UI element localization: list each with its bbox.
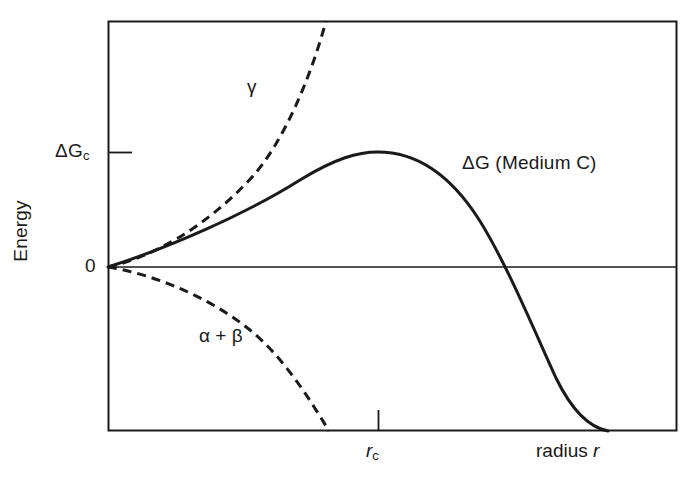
curve-delta-g xyxy=(108,152,608,431)
x-axis-label-variable: r xyxy=(593,440,599,461)
x-axis-label: radius r xyxy=(536,440,599,462)
curve-alpha-beta xyxy=(108,267,329,431)
free-energy-vs-radius-chart: Energy ΔGc 0 rc radius r γ α + β ΔG (Med… xyxy=(0,0,699,486)
x-tick-label-r-c: rc xyxy=(366,440,379,463)
y-axis-label: Energy xyxy=(10,196,32,266)
chart-svg xyxy=(0,0,699,486)
y-tick-label-delta-g-c: ΔGc xyxy=(55,140,89,163)
y-tick-label-delta-g-c-subscript: c xyxy=(83,148,90,163)
plot-frame xyxy=(109,22,677,431)
curve-label-gamma: γ xyxy=(247,76,257,98)
y-tick-label-delta-g-c-main: ΔG xyxy=(55,140,83,161)
curve-gamma xyxy=(108,21,326,267)
y-tick-label-zero: 0 xyxy=(85,255,96,277)
x-axis-label-prefix: radius xyxy=(536,440,593,461)
curve-label-alpha-beta: α + β xyxy=(199,325,243,347)
curve-label-delta-g: ΔG (Medium C) xyxy=(462,152,597,174)
x-tick-label-r-c-subscript: c xyxy=(372,448,379,463)
